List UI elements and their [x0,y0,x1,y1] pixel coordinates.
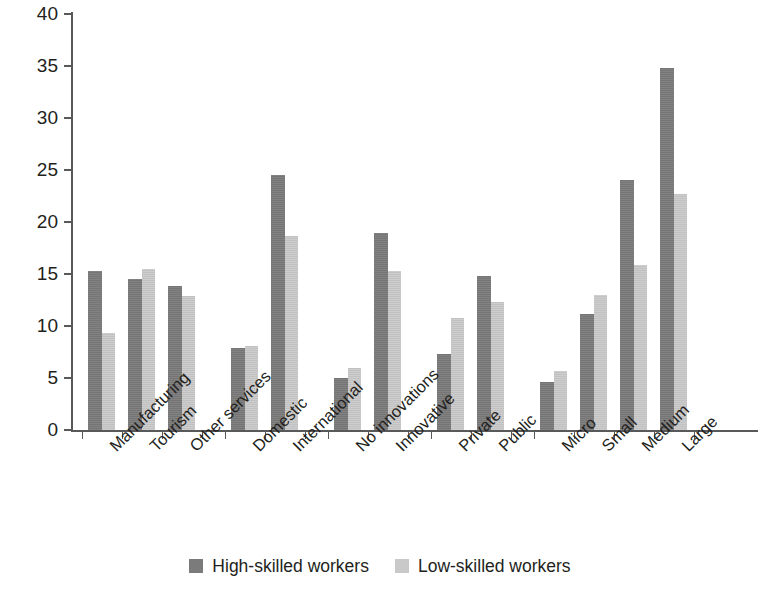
y-axis-tick-label: 15 [0,261,58,287]
chart-legend: High-skilled workersLow-skilled workers [0,556,760,576]
y-axis-tick-mark [64,117,72,119]
bar [374,233,388,430]
y-axis-tick-label: 25 [0,157,58,183]
y-axis-tick-mark [64,377,72,379]
y-axis-tick-mark [64,13,72,15]
bar [451,318,465,430]
y-axis-tick-label: 0 [0,417,58,443]
legend-entry: High-skilled workers [189,556,369,576]
y-axis-tick-mark [64,221,72,223]
bar [271,175,285,430]
x-axis-tick-mark [82,431,83,439]
bar [660,68,674,430]
y-axis-tick-mark [64,273,72,275]
bar [88,271,102,430]
bar [674,194,688,430]
y-axis-tick-label: 35 [0,53,58,79]
x-axis-tick-mark [225,431,226,439]
y-axis-tick-label: 40 [0,1,58,27]
y-axis-tick-mark [64,429,72,431]
legend-label: High-skilled workers [212,556,369,576]
bar [554,371,568,430]
plot-area [72,14,758,430]
y-axis-tick-mark [64,325,72,327]
legend-swatch [189,559,203,573]
x-axis-tick-mark [328,431,329,439]
y-axis-tick-label: 10 [0,313,58,339]
y-axis-tick-label: 30 [0,105,58,131]
x-axis-tick-mark [534,431,535,439]
x-axis-tick-mark [431,431,432,439]
bar [594,295,608,430]
bar [540,382,554,430]
y-axis-tick-label: 20 [0,209,58,235]
bar-chart: 0510152025303540 ManufacturingTourismOth… [0,0,760,589]
y-axis-tick-label: 5 [0,365,58,391]
bar [634,265,648,430]
legend-entry: Low-skilled workers [395,556,571,576]
legend-swatch [395,559,409,573]
bar [580,314,594,430]
bar [620,180,634,430]
bar [102,333,116,430]
y-axis-tick-mark [64,65,72,67]
y-axis-tick-mark [64,169,72,171]
legend-label: Low-skilled workers [418,556,571,576]
